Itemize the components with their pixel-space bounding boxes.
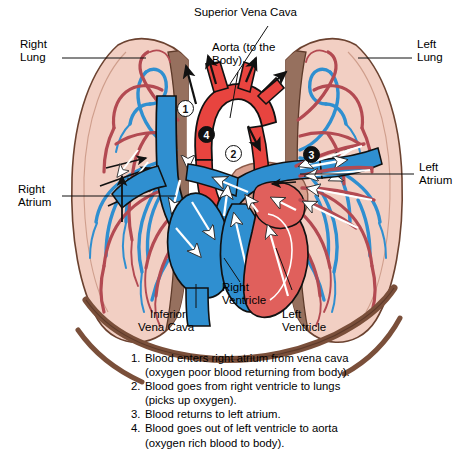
label-superior-vena-cava: Superior Vena Cava [194, 6, 297, 19]
label-left-ventricle-line1: Left [282, 308, 301, 321]
caption-step-3: 3. Blood returns to left atrium. [131, 407, 431, 421]
label-inferior-vena-cava-line2: Vena Cava [138, 321, 194, 334]
label-right-lung-line2: Lung [20, 51, 46, 64]
caption-step-2-sub: (picks up oxygen). [131, 393, 431, 407]
caption-step-2-number: 2. [131, 379, 145, 393]
label-aorta-line1: Aorta (to the [212, 41, 275, 54]
label-right-lung-line1: Right [20, 38, 47, 51]
label-left-lung-line1: Left [417, 38, 436, 51]
caption-list: 1. Blood enters right atrium from vena c… [131, 351, 431, 450]
label-right-atrium-line1: Right [18, 183, 45, 196]
caption-step-3-number: 3. [131, 407, 145, 421]
step-badge-2: 2 [225, 145, 242, 162]
caption-step-2: 2. Blood goes from right ventricle to lu… [131, 379, 431, 393]
step-badge-3: 3 [303, 146, 320, 163]
caption-step-1-text: Blood enters right atrium from vena cava [145, 351, 431, 365]
caption-step-4-number: 4. [131, 421, 145, 435]
label-right-ventricle-line1: Right [222, 281, 249, 294]
caption-step-4: 4. Blood goes out of left ventricle to a… [131, 421, 431, 435]
label-left-atrium-line1: Left [419, 161, 438, 174]
step-badge-4: 4 [198, 126, 215, 143]
step-badge-1: 1 [177, 100, 194, 117]
label-right-ventricle-line2: Ventricle [222, 294, 266, 307]
caption-step-1: 1. Blood enters right atrium from vena c… [131, 351, 431, 365]
caption-step-3-text: Blood returns to left atrium. [145, 407, 431, 421]
caption-step-1-number: 1. [131, 351, 145, 365]
label-aorta-line2: Body) [212, 54, 242, 67]
caption-step-4-text: Blood goes out of left ventricle to aort… [145, 421, 431, 435]
label-left-lung-line2: Lung [417, 51, 443, 64]
label-inferior-vena-cava-line1: Inferior [150, 308, 186, 321]
caption-step-1-sub: (oxygen poor blood returning from body). [131, 365, 431, 379]
label-right-atrium-line2: Atrium [18, 196, 51, 209]
caption-step-4-sub: (oxygen rich blood to body). [131, 436, 431, 450]
caption-step-2-text: Blood goes from right ventricle to lungs [145, 379, 431, 393]
label-left-ventricle-line2: Ventricle [282, 321, 326, 334]
heart-lungs-diagram: Superior Vena Cava Aorta (to the Body) R… [0, 0, 473, 466]
label-left-atrium-line2: Atrium [419, 174, 452, 187]
